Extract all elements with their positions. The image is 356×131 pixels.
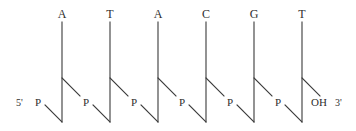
- diagonal-upper-3: [158, 78, 176, 96]
- diagonal-upper-4: [206, 78, 224, 96]
- diagonal-upper-5: [254, 78, 272, 96]
- diagonal-lower-3: [189, 105, 206, 122]
- phosphate-label-2: P: [83, 97, 89, 108]
- base-label-2: T: [106, 8, 113, 20]
- phosphate-label-1: P: [35, 97, 41, 108]
- phosphate-label-6: P: [275, 97, 281, 108]
- base-label-3: A: [154, 8, 163, 20]
- three-prime-end-label: 3': [335, 98, 342, 108]
- five-prime-end-label: 5': [16, 98, 23, 108]
- base-label-4: C: [202, 8, 210, 20]
- diagonal-upper-1: [62, 78, 80, 96]
- phosphate-label-3: P: [131, 97, 137, 108]
- diagonal-lower-5: [285, 105, 302, 122]
- diagonal-lower-2: [141, 105, 158, 122]
- diagonal-lower-0: [45, 105, 62, 122]
- diagonal-lower-1: [93, 105, 110, 122]
- base-label-1: A: [58, 8, 67, 20]
- diagonal-upper-6: [302, 78, 320, 96]
- hydroxyl-group-label: OH: [311, 97, 327, 108]
- dna-backbone-diagram: A T A C G T 5' P P P P P P OH 3': [0, 0, 356, 131]
- diagonal-upper-2: [110, 78, 128, 96]
- phosphate-label-4: P: [179, 97, 185, 108]
- phosphate-label-5: P: [227, 97, 233, 108]
- base-label-6: T: [298, 8, 305, 20]
- diagonal-lower-4: [237, 105, 254, 122]
- base-label-5: G: [250, 8, 259, 20]
